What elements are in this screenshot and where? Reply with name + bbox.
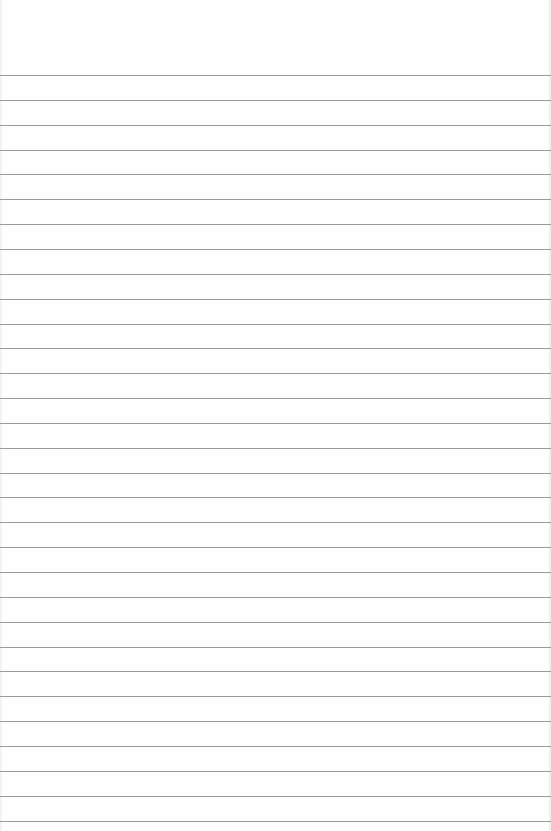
ruled-line — [0, 497, 551, 498]
ruled-line — [0, 746, 551, 747]
ruled-line — [0, 324, 551, 325]
ruled-line — [0, 249, 551, 250]
ruled-line — [0, 473, 551, 474]
ruled-line — [0, 572, 551, 573]
ruled-line — [0, 274, 551, 275]
ruled-line — [0, 622, 551, 623]
ruled-line — [0, 348, 551, 349]
ruled-line — [0, 647, 551, 648]
ruled-line — [0, 696, 551, 697]
ruled-line — [0, 174, 551, 175]
ruled-line — [0, 100, 551, 101]
ruled-line — [0, 150, 551, 151]
ruled-line — [0, 671, 551, 672]
lined-paper-sheet — [0, 0, 551, 831]
ruled-line — [0, 199, 551, 200]
ruled-line — [0, 125, 551, 126]
ruled-line — [0, 771, 551, 772]
ruled-line — [0, 299, 551, 300]
ruled-line — [0, 224, 551, 225]
ruled-line — [0, 721, 551, 722]
ruled-line — [0, 547, 551, 548]
ruled-line — [0, 448, 551, 449]
ruled-line — [0, 423, 551, 424]
ruled-line — [0, 522, 551, 523]
ruled-line — [0, 597, 551, 598]
ruled-line — [0, 796, 551, 797]
ruled-line — [0, 373, 551, 374]
ruled-line — [0, 75, 551, 76]
ruled-line — [0, 821, 551, 822]
ruled-line — [0, 398, 551, 399]
